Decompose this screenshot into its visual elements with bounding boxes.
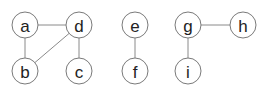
node-label: f xyxy=(133,63,138,82)
node-h: h xyxy=(230,12,256,38)
node-label: h xyxy=(238,17,247,36)
node-d: d xyxy=(66,12,92,38)
node-c: c xyxy=(66,58,92,84)
node-e: e xyxy=(122,12,148,38)
node-label: b xyxy=(20,63,29,82)
node-a: a xyxy=(12,12,38,38)
node-label: d xyxy=(74,17,83,36)
nodes-layer: adbcefghi xyxy=(12,12,256,84)
node-i: i xyxy=(175,58,201,84)
node-label: g xyxy=(183,17,192,36)
node-b: b xyxy=(12,58,38,84)
node-g: g xyxy=(175,12,201,38)
node-label: a xyxy=(20,17,30,36)
node-f: f xyxy=(122,58,148,84)
graph-diagram: adbcefghi xyxy=(0,0,263,93)
edge-d-b xyxy=(35,33,69,62)
node-label: e xyxy=(130,17,139,36)
node-label: c xyxy=(75,63,84,82)
node-label: i xyxy=(186,63,190,82)
